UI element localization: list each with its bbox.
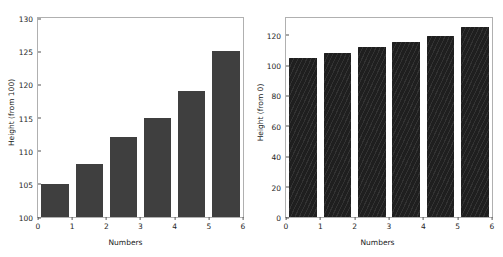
bar-slot: [389, 18, 423, 217]
y-tick-label: 115: [19, 114, 38, 123]
x-tick-left: 0: [36, 217, 41, 231]
x-tick-mark: [492, 217, 493, 220]
y-tick-left: 105: [19, 174, 38, 193]
bar-slot: [286, 18, 320, 217]
y-tick-mark: [286, 65, 289, 66]
y-tick-mark: [286, 35, 289, 36]
x-tick-mark: [174, 217, 175, 220]
bar-left-0: [41, 184, 68, 217]
x-tick-right: 4: [421, 217, 426, 231]
x-tick-mark: [243, 217, 244, 220]
y-tick-label: 120: [19, 81, 38, 90]
y-tick-mark: [38, 151, 41, 152]
bar-slot: [209, 18, 243, 217]
bar-slot: [72, 18, 106, 217]
x-tick-left: 4: [172, 217, 177, 231]
y-tick-left: 110: [19, 141, 38, 160]
x-tick-mark: [286, 217, 287, 220]
x-tick-label: 1: [318, 222, 323, 231]
y-tick-right: 120: [267, 25, 286, 44]
x-tick-left: 5: [206, 217, 211, 231]
y-tick-mark: [286, 187, 289, 188]
x-tick-mark: [208, 217, 209, 220]
bar-right-0: [289, 58, 316, 218]
x-tick-left: 1: [70, 217, 75, 231]
figure: 1001051101151201251300123456 Height (fro…: [0, 0, 503, 257]
y-tick-label: 125: [19, 48, 38, 57]
x-tick-label: 1: [70, 222, 75, 231]
x-tick-label: 5: [455, 222, 460, 231]
bar-right-5: [461, 27, 488, 217]
x-tick-label: 2: [352, 222, 357, 231]
y-tick-mark: [286, 95, 289, 96]
y-tick-label: 100: [267, 62, 286, 71]
x-tick-label: 4: [421, 222, 426, 231]
bar-right-1: [324, 53, 351, 217]
chart-panel-right: 0204060801001200123456 Height (from 0) N…: [252, 0, 503, 257]
y-tick-label: 40: [271, 153, 286, 162]
x-tick-label: 3: [138, 222, 143, 231]
bar-slot: [141, 18, 175, 217]
y-tick-left: 125: [19, 42, 38, 61]
x-tick-right: 0: [284, 217, 289, 231]
x-tick-mark: [457, 217, 458, 220]
plot-area-right: 0204060801001200123456: [285, 17, 493, 218]
y-tick-left: 120: [19, 75, 38, 94]
x-tick-mark: [423, 217, 424, 220]
x-tick-mark: [320, 217, 321, 220]
y-tick-label: 105: [19, 180, 38, 189]
bar-left-5: [212, 51, 239, 217]
y-tick-mark: [38, 18, 41, 19]
x-tick-label: 6: [490, 222, 495, 231]
bar-left-4: [178, 91, 205, 217]
y-tick-left: 115: [19, 108, 38, 127]
x-tick-mark: [389, 217, 390, 220]
chart-panel-left: 1001051101151201251300123456 Height (fro…: [0, 0, 251, 257]
y-tick-right: 80: [271, 86, 286, 105]
y-tick-mark: [286, 156, 289, 157]
x-tick-left: 2: [104, 217, 109, 231]
y-tick-mark: [38, 84, 41, 85]
x-tick-label: 3: [387, 222, 392, 231]
y-tick-right: 40: [271, 147, 286, 166]
bar-series-right: [286, 18, 492, 217]
x-tick-label: 0: [36, 222, 41, 231]
y-tick-label: 120: [267, 31, 286, 40]
bar-left-3: [144, 118, 171, 218]
x-tick-mark: [106, 217, 107, 220]
x-axis-label-left: Numbers: [0, 238, 251, 247]
y-axis-label-left: Height (from 100): [7, 58, 16, 168]
y-tick-right: 100: [267, 56, 286, 75]
bar-right-2: [358, 47, 385, 217]
bar-slot: [38, 18, 72, 217]
x-tick-right: 3: [387, 217, 392, 231]
x-tick-mark: [72, 217, 73, 220]
y-axis-label-right: Height (from 0): [256, 58, 265, 168]
x-tick-mark: [354, 217, 355, 220]
bar-left-2: [110, 137, 137, 217]
bar-slot: [458, 18, 492, 217]
y-tick-mark: [286, 126, 289, 127]
x-tick-left: 6: [241, 217, 246, 231]
bar-slot: [423, 18, 457, 217]
x-tick-mark: [38, 217, 39, 220]
x-tick-right: 6: [490, 217, 495, 231]
y-tick-label: 130: [19, 15, 38, 24]
x-tick-mark: [140, 217, 141, 220]
y-tick-mark: [38, 118, 41, 119]
x-tick-left: 3: [138, 217, 143, 231]
x-tick-label: 0: [284, 222, 289, 231]
bar-slot: [355, 18, 389, 217]
y-tick-mark: [38, 184, 41, 185]
x-tick-label: 5: [206, 222, 211, 231]
plot-area-left: 1001051101151201251300123456: [37, 17, 244, 218]
bar-slot: [320, 18, 354, 217]
x-tick-right: 2: [352, 217, 357, 231]
x-tick-label: 2: [104, 222, 109, 231]
bar-slot: [106, 18, 140, 217]
y-tick-right: 20: [271, 177, 286, 196]
y-tick-label: 110: [19, 147, 38, 156]
bar-right-3: [392, 42, 419, 217]
x-tick-right: 1: [318, 217, 323, 231]
x-tick-label: 6: [241, 222, 246, 231]
